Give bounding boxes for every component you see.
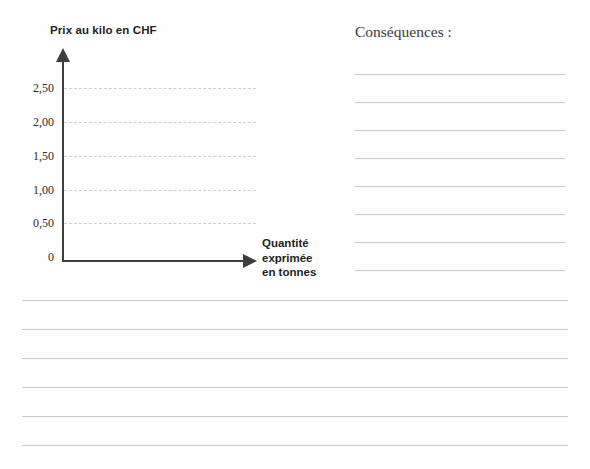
x-axis-line xyxy=(62,260,246,262)
x-axis-title-line: exprimée xyxy=(262,251,336,266)
y-axis-title: Prix au kilo en CHF xyxy=(50,24,157,36)
page-writing-line[interactable] xyxy=(22,387,568,388)
y-tick-label: 0,50 xyxy=(10,217,54,229)
y-tick: 2,50 xyxy=(8,82,54,94)
x-axis-arrow-icon xyxy=(243,254,257,268)
y-tick-label: 1,00 xyxy=(10,184,54,196)
consequences-writing-line[interactable] xyxy=(355,270,565,271)
consequences-section: Conséquences : xyxy=(350,0,590,285)
x-axis-title: Quantité exprimée en tonnes xyxy=(262,236,336,280)
consequences-writing-line[interactable] xyxy=(355,102,565,103)
y-tick-label: 2,00 xyxy=(10,116,54,128)
consequences-writing-line[interactable] xyxy=(355,74,565,75)
page-writing-line[interactable] xyxy=(22,329,568,330)
page-writing-line[interactable] xyxy=(22,416,568,417)
gridline xyxy=(64,156,256,157)
page-writing-line[interactable] xyxy=(22,445,568,446)
y-tick: 0,50 xyxy=(8,217,54,229)
gridline xyxy=(64,122,256,123)
gridline xyxy=(64,190,256,191)
x-axis-title-line: en tonnes xyxy=(262,265,336,280)
y-tick-label: 1,50 xyxy=(10,150,54,162)
y-tick-label: 2,50 xyxy=(10,82,54,94)
y-tick-label: 0 xyxy=(10,251,54,263)
x-axis-title-line: Quantité xyxy=(262,236,336,251)
y-tick: 0 xyxy=(8,251,54,263)
consequences-writing-line[interactable] xyxy=(355,130,565,131)
y-axis-line xyxy=(62,60,64,262)
chart-area: Prix au kilo en CHF 2,50 2,00 1,50 1,00 … xyxy=(0,0,340,285)
consequences-writing-line[interactable] xyxy=(355,214,565,215)
consequences-writing-line[interactable] xyxy=(355,186,565,187)
consequences-writing-line[interactable] xyxy=(355,158,565,159)
gridline xyxy=(64,223,256,224)
consequences-writing-line[interactable] xyxy=(355,242,565,243)
page-writing-line[interactable] xyxy=(22,358,568,359)
consequences-heading: Conséquences : xyxy=(355,23,452,41)
worksheet-page: Prix au kilo en CHF 2,50 2,00 1,50 1,00 … xyxy=(0,0,590,469)
gridline xyxy=(64,88,256,89)
y-tick: 1,00 xyxy=(8,184,54,196)
y-tick: 1,50 xyxy=(8,150,54,162)
page-writing-line[interactable] xyxy=(22,300,568,301)
y-tick: 2,00 xyxy=(8,116,54,128)
